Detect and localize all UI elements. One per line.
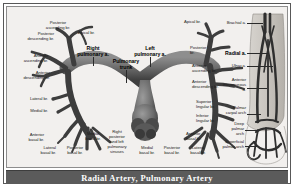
label-posterior-descending-br: Posterior descending br.	[10, 32, 54, 42]
label-brachial-artery: Brachial a.	[210, 21, 246, 26]
caption-text: Radial Artery, Pulmonary Artery	[81, 173, 213, 183]
label-anterior-ascending-br: Anterior ascending br.	[8, 54, 48, 64]
label-lateral-br: Lateral br.	[12, 97, 48, 102]
leader-radial-artery	[247, 53, 269, 54]
label-pulmonary-trunk: Pulmonary trunk	[106, 58, 146, 70]
label-palmar-carpal-arch: Palmar carpal arch	[206, 106, 246, 116]
leader-anterior-interosseous-artery	[247, 88, 267, 89]
arm-artery-illustration	[245, 14, 286, 164]
illustration-plate: Right pulmonary a. Pulmonary trunk Left …	[6, 6, 288, 168]
label-superficial-palmar-arch: Superficial palmar arch	[198, 140, 244, 150]
leader-left-pulmonary-artery	[150, 57, 151, 67]
leader-palmar-carpal-arch	[247, 114, 261, 115]
label-radial-artery: Radial a.	[206, 50, 246, 56]
label-medial-br: Medial br.	[14, 109, 48, 114]
leader-pulmonary-trunk	[126, 70, 127, 83]
figure-page: Right pulmonary a. Pulmonary trunk Left …	[0, 0, 296, 188]
leader-brachial-artery	[247, 23, 263, 24]
label-ulnar-artery: Ulnar a.	[210, 64, 246, 69]
label-anterior-basal-br-left: Anterior basal br.	[12, 133, 44, 143]
label-posterior-basal-br-left: Posterior basal br.	[58, 146, 92, 156]
leader-superficial-palmar-arch	[245, 146, 257, 147]
leader-ulnar-artery	[247, 66, 273, 67]
label-posterior-ascending-br: Posterior ascending br.	[38, 21, 78, 31]
label-left-pulmonary-artery: Left pulmonary a.	[130, 45, 170, 57]
leader-deep-palmar-arch	[245, 130, 259, 131]
label-lateral-basal-br-left: Lateral basal br.	[26, 146, 56, 156]
label-pulmonary-sinuses: Right posterior and left pulmonary sinus…	[102, 130, 132, 155]
label-apical-br-right: Apical br.	[78, 31, 110, 36]
label-deep-palmar-arch: Deep palmar arch	[210, 122, 244, 137]
caption-bar: Radial Artery, Pulmonary Artery	[6, 170, 288, 184]
label-anterior-descending-br: Anterior descending br.	[8, 71, 50, 81]
label-right-pulmonary-artery: Right pulmonary a.	[72, 45, 114, 57]
leader-right-pulmonary-artery	[93, 57, 94, 66]
label-anterior-interosseous-artery: Anterior interosseous a.	[202, 78, 246, 93]
